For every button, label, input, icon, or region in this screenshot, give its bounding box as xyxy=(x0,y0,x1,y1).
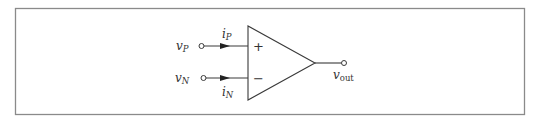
output-terminal xyxy=(342,61,347,66)
input-p-terminal xyxy=(199,44,204,49)
input-n-terminal xyxy=(201,76,206,81)
plus-sign: + xyxy=(253,39,264,54)
op-amp-diagram: + − vP iP vN iN vout xyxy=(0,0,538,121)
minus-sign: − xyxy=(253,71,264,86)
